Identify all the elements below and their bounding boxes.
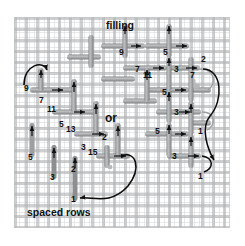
stitch-number-filling-9: 9	[119, 48, 124, 57]
stitch-number-filling-1b: 1	[198, 172, 203, 181]
stitch-number-filling-1a: 1	[198, 127, 203, 136]
stitch-number-filling-2: 2	[201, 55, 206, 64]
stitch-number-spaced-11: 11	[47, 105, 56, 114]
stitch-number-filling-7a: 7	[135, 65, 140, 74]
stitch-number-spaced-2a: 2	[102, 133, 107, 142]
stitch-number-spaced-3b: 3	[50, 173, 55, 182]
stitch-number-filling-11: 11	[143, 71, 152, 80]
stitch-number-filling-3b: 3	[174, 108, 179, 117]
stitch-number-filling-3a: 3	[174, 65, 179, 74]
stitch-number-filling-5a: 5	[163, 48, 168, 57]
stitch-number-spaced-15: 15	[88, 148, 97, 157]
stitch-number-spaced-7: 7	[39, 96, 44, 105]
stitch-number-spaced-3a: 3	[81, 143, 86, 152]
stitch-number-filling-7b: 7	[190, 71, 195, 80]
stitch-number-filling-3c: 3	[172, 152, 177, 161]
cross-stitch-diagram: filling or spaced rows 9 5 2 7 11 3 7 5 …	[0, 0, 245, 246]
stitch-number-spaced-2b: 2	[71, 165, 76, 174]
stitch-number-spaced-5a: 5	[59, 120, 64, 129]
stitch-number-spaced-1: 1	[71, 195, 76, 204]
stitch-number-filling-5b: 5	[162, 88, 167, 97]
stitch-number-spaced-9: 9	[24, 84, 29, 93]
caption-or: or	[105, 112, 117, 124]
stitch-number-spaced-13: 13	[66, 125, 75, 134]
caption-spaced-rows: spaced rows	[27, 207, 91, 218]
caption-filling: filling	[106, 20, 134, 31]
stitch-number-spaced-5b: 5	[28, 153, 33, 162]
stitch-number-filling-5c: 5	[155, 127, 160, 136]
